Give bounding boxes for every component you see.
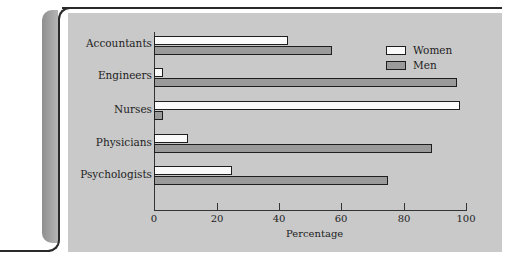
bar-psychologists-women: [154, 166, 232, 175]
x-tick-label: 60: [335, 213, 348, 224]
x-tick-40: [279, 203, 280, 210]
x-tick-label: 0: [151, 213, 157, 224]
bar-engineers-women: [154, 68, 163, 77]
category-label-nurses: Nurses: [114, 103, 152, 115]
x-tick-label: 40: [273, 213, 286, 224]
legend-label-men: Men: [413, 59, 437, 71]
bar-accountants-women: [154, 36, 288, 45]
x-tick-60: [341, 203, 342, 210]
bar-nurses-men: [154, 111, 163, 120]
bar-nurses-women: [154, 101, 460, 110]
category-label-engineers: Engineers: [98, 69, 152, 81]
category-label-physicians: Physicians: [96, 136, 152, 148]
bar-chart: Accountants Engineers Nurses Physicians …: [0, 0, 507, 258]
x-tick-label: 20: [211, 213, 224, 224]
legend-swatch-men: [386, 61, 406, 70]
bar-physicians-men: [154, 144, 432, 153]
x-tick-label: 80: [398, 213, 411, 224]
x-tick-0: [154, 203, 155, 210]
legend-swatch-women: [386, 46, 406, 55]
legend-label-women: Women: [413, 44, 452, 56]
bar-engineers-men: [154, 78, 457, 87]
bar-psychologists-men: [154, 176, 388, 185]
bar-physicians-women: [154, 134, 188, 143]
x-tick-80: [404, 203, 405, 210]
category-label-accountants: Accountants: [86, 37, 152, 49]
x-axis-title: Percentage: [286, 228, 343, 239]
bar-accountants-men: [154, 46, 332, 55]
x-tick-20: [217, 203, 218, 210]
x-axis: [154, 210, 467, 211]
x-tick-label: 100: [456, 213, 475, 224]
category-label-psychologists: Psychologists: [80, 168, 152, 180]
x-tick-100: [466, 203, 467, 210]
